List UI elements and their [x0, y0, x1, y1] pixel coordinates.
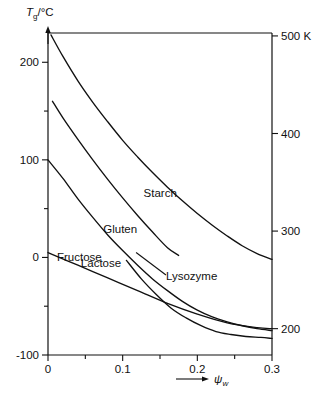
- right-tick-label: 200: [281, 323, 300, 335]
- y-axis-arrow-head: [45, 26, 50, 33]
- y-axis-title-group: Tg/°C: [26, 6, 54, 44]
- curve-lactose: [48, 160, 272, 331]
- curve-label-fructose: Fructose: [57, 251, 102, 263]
- curve-label-lysozyme: Lysozyme: [166, 270, 217, 282]
- series-labels: StarchGlutenLactoseFructoseLysozyme: [57, 187, 217, 282]
- right-tick-label: 400: [281, 128, 300, 140]
- chart-container: Tg/°C 2001000-100 500 K400300200 00.10.2…: [0, 0, 324, 397]
- bottom-tick-label: 0.1: [115, 363, 131, 375]
- x-axis-title-group: ψw: [176, 373, 229, 388]
- x-axis-title: ψw: [214, 373, 229, 388]
- left-tick-label: 0: [33, 251, 39, 263]
- bottom-tick-label: 0.2: [189, 363, 205, 375]
- bottom-axis-ticks: 00.10.20.3: [45, 355, 280, 375]
- lysozyme-leader: [136, 253, 166, 275]
- left-tick-label: 100: [20, 154, 39, 166]
- left-tick-label: -100: [16, 349, 39, 361]
- bottom-tick-label: 0.3: [264, 363, 280, 375]
- tg-vs-water-content-chart: Tg/°C 2001000-100 500 K400300200 00.10.2…: [0, 0, 324, 397]
- curve-label-starch: Starch: [144, 187, 177, 199]
- left-tick-label: 200: [20, 56, 39, 68]
- right-tick-label: 500 K: [281, 30, 311, 42]
- right-tick-label: 300: [281, 225, 300, 237]
- annotation-leaders: [136, 253, 166, 275]
- y-axis-title: Tg/°C: [26, 6, 54, 21]
- curve-label-gluten: Gluten: [103, 223, 137, 235]
- x-axis-arrow-head: [202, 376, 209, 381]
- right-axis-ticks: 500 K400300200: [272, 30, 311, 335]
- left-axis-ticks: 2001000-100: [16, 56, 48, 361]
- bottom-tick-label: 0: [45, 363, 51, 375]
